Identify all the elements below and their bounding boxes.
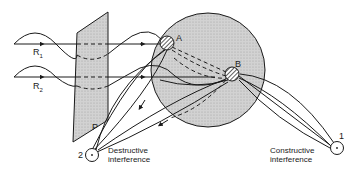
scatterer-b (225, 67, 239, 81)
ray-r1-label: R1 (33, 47, 43, 61)
ray-r2-label: R2 (33, 81, 43, 95)
detector-1-dot (336, 147, 338, 149)
scatterer-a (160, 36, 174, 50)
scatterer-a-label: A (176, 33, 182, 43)
destructive-interference-caption: Destructive interference (108, 146, 150, 164)
ray-r1-subscript: 1 (40, 53, 43, 59)
ray-r2-subscript: 2 (40, 87, 43, 93)
detector-1-label: 1 (339, 131, 344, 141)
constructive-interference-caption: Constructive interference (270, 146, 314, 164)
detector-2-label: 2 (78, 150, 83, 160)
detector-2-dot (91, 154, 93, 156)
plate-label: P (92, 122, 98, 132)
scatterer-b-label: B (235, 59, 241, 69)
